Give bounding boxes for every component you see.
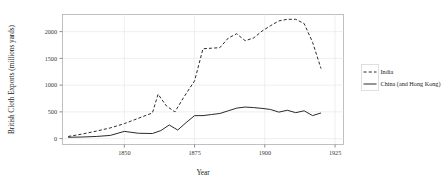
legend-swatch-box: [362, 65, 379, 91]
y-tick-label: 1500: [45, 55, 57, 62]
x-tick-label: 1925: [329, 149, 341, 156]
x-tick-label: 1875: [188, 149, 200, 156]
y-tick-label: 500: [48, 108, 57, 115]
line-chart: 0500100015002000 1850187519001925 Britis…: [0, 0, 444, 184]
x-axis-tick-labels: 1850187519001925: [118, 149, 341, 156]
plot-frame: [63, 15, 344, 145]
y-axis-title: British Cloth Exports (millions yards): [8, 24, 16, 134]
y-tick-label: 2000: [45, 28, 57, 35]
legend-label: India: [381, 68, 394, 75]
x-axis-title: Year: [196, 169, 210, 177]
chart-figure: 0500100015002000 1850187519001925 Britis…: [0, 0, 444, 184]
y-axis-tick-labels: 0500100015002000: [45, 28, 57, 142]
chart-legend: IndiaChina (and Hong Kong): [362, 65, 441, 91]
legend-label: China (and Hong Kong): [381, 80, 441, 88]
y-tick-label: 0: [54, 135, 57, 142]
y-tick-label: 1000: [45, 81, 57, 88]
vertical-gridlines: [124, 15, 335, 145]
x-tick-label: 1850: [118, 149, 130, 156]
x-tick-label: 1900: [259, 149, 271, 156]
horizontal-gridlines: [63, 32, 344, 139]
